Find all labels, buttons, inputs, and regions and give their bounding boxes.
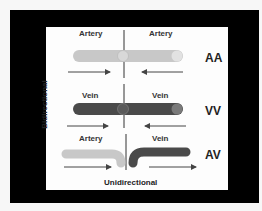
aa-vessel-cap: [172, 51, 183, 62]
aa-junction: [118, 51, 129, 62]
y-axis-label: Bidirectional: [40, 80, 49, 128]
vv-junction: [118, 104, 129, 115]
av-right-label: Vein: [152, 134, 168, 143]
av-artery-vessel: [66, 154, 121, 163]
vv-vessel-cap: [172, 104, 183, 115]
aa-right-label: Artery: [149, 29, 173, 38]
aa-left-label: Artery: [79, 29, 103, 38]
vv-left-label: Vein: [82, 91, 98, 100]
av-vein-vessel: [133, 152, 186, 163]
aa-code: AA: [205, 51, 222, 65]
vv-right-label: Vein: [152, 91, 168, 100]
av-code: AV: [205, 148, 221, 162]
vv-code: VV: [205, 104, 221, 118]
av-left-label: Artery: [79, 134, 103, 143]
x-axis-label: Unidirectional: [104, 178, 157, 187]
